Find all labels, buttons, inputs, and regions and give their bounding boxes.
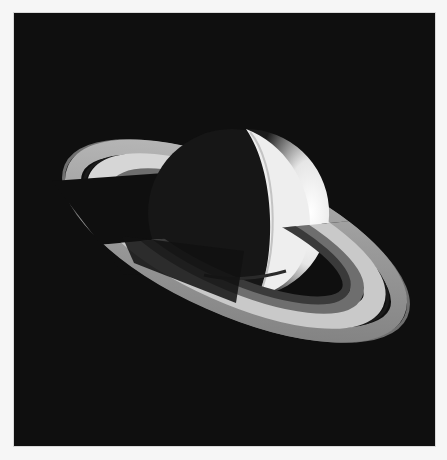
saturn-photo: Black-and-white photograph of Saturn see… bbox=[14, 13, 435, 446]
saturn-illustration bbox=[14, 13, 435, 446]
